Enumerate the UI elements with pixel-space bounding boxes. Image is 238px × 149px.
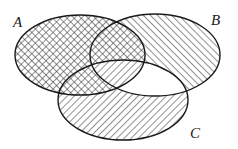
label-set-a: A xyxy=(13,15,22,30)
label-set-c: C xyxy=(190,126,200,141)
label-set-b: B xyxy=(211,13,220,28)
venn-diagram xyxy=(0,0,238,149)
